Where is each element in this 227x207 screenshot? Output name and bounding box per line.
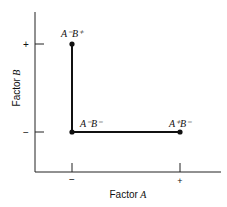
diagram-canvas: + − − + Factor A Factor B A⁻B⁺ A⁻B⁻ A⁺B⁻ (0, 0, 227, 207)
y-axis-label: Factor B (11, 70, 22, 107)
y-tick-label-minus: − (23, 127, 29, 138)
x-axis-label: Factor A (110, 189, 148, 200)
x-tick-label-plus: + (177, 176, 182, 186)
point-a-minus-b-plus (69, 41, 74, 46)
point-label-a-minus-b-minus: A⁻B⁻ (79, 118, 103, 129)
point-a-plus-b-minus (177, 129, 182, 134)
point-label-a-minus-b-plus: A⁻B⁺ (60, 28, 84, 39)
point-a-minus-b-minus (69, 129, 74, 134)
x-tick-label-minus: − (69, 174, 75, 185)
point-label-a-plus-b-minus: A⁺B⁻ (168, 118, 192, 129)
factor-design-diagram: + − − + Factor A Factor B A⁻B⁺ A⁻B⁻ A⁺B⁻ (0, 0, 227, 207)
y-tick-label-plus: + (23, 39, 29, 50)
